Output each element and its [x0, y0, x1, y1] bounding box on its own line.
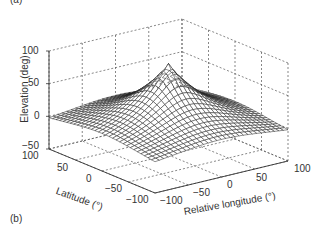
lon-tick-label: −50	[193, 188, 210, 198]
panel-label-b: (b)	[10, 213, 22, 224]
lat-tick-label: 0	[86, 174, 92, 184]
lon-tick-label: 0	[227, 180, 233, 190]
lon-tick-label: −100	[160, 196, 183, 206]
lon-tick-label: 100	[294, 164, 311, 174]
lon-tick-label: 50	[256, 173, 267, 183]
lat-tick-label: 100	[22, 151, 39, 161]
lat-tick-label: −100	[126, 195, 149, 205]
panel-label-a: (a)	[10, 0, 22, 5]
lat-tick-label: −50	[105, 184, 122, 194]
lat-tick-label: 50	[57, 163, 68, 173]
z-tick-label: 0	[34, 111, 40, 121]
z-axis-label: Elevation (deg)	[20, 44, 30, 134]
